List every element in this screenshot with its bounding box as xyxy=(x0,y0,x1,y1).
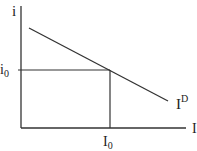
I0-label: I0 xyxy=(103,134,113,151)
demand-curve xyxy=(29,28,168,101)
investment-demand-chart: i i0 I0 ID I xyxy=(0,0,197,151)
i0-label: i0 xyxy=(0,62,9,79)
demand-curve-label: ID xyxy=(176,93,188,112)
x-axis-label: I xyxy=(192,121,197,136)
y-axis-label: i xyxy=(12,3,16,19)
